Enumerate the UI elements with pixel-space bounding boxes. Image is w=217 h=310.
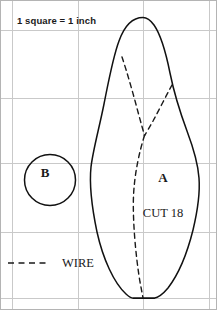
pattern-sheet: 1 square = 1 inch B A CUT 18 WIRE	[0, 0, 217, 310]
pattern-drawing	[0, 0, 217, 310]
